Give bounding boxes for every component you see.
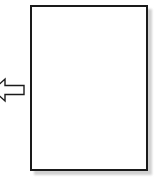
diagram-canvas	[0, 0, 162, 189]
left-arrow-shape	[0, 79, 24, 101]
left-arrow[interactable]	[0, 78, 26, 102]
page-rectangle[interactable]	[30, 5, 148, 171]
left-arrow-icon	[0, 78, 26, 102]
